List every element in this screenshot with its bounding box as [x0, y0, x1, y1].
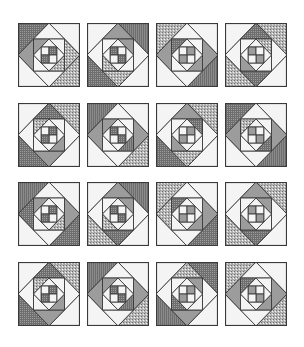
center-patch — [187, 294, 195, 302]
center-patch — [118, 294, 126, 302]
center-patch — [49, 206, 57, 214]
center-patch — [179, 135, 187, 143]
center-patch — [256, 127, 264, 135]
quilt-block — [225, 262, 287, 326]
quilt-block — [225, 23, 287, 87]
center-patch — [110, 55, 118, 63]
quilt-block — [87, 23, 149, 87]
center-patch — [118, 127, 126, 135]
center-patch — [179, 294, 187, 302]
center-patch — [118, 55, 126, 63]
center-patch — [256, 47, 264, 55]
center-patch — [110, 286, 118, 294]
center-patch — [187, 55, 195, 63]
center-patch — [41, 135, 49, 143]
quilt-block — [225, 182, 287, 246]
center-patch — [41, 214, 49, 222]
center-patch — [49, 214, 57, 222]
center-patch — [248, 135, 256, 143]
quilt-block — [156, 103, 218, 167]
center-patch — [248, 214, 256, 222]
quilt-block — [18, 23, 80, 87]
center-patch — [187, 127, 195, 135]
center-patch — [118, 135, 126, 143]
center-patch — [187, 135, 195, 143]
center-patch — [110, 135, 118, 143]
center-patch — [110, 127, 118, 135]
center-patch — [248, 47, 256, 55]
center-patch — [256, 206, 264, 214]
center-patch — [110, 206, 118, 214]
center-patch — [49, 127, 57, 135]
center-patch — [179, 286, 187, 294]
center-patch — [187, 286, 195, 294]
quilt-block — [87, 182, 149, 246]
center-patch — [41, 55, 49, 63]
quilt-block — [156, 262, 218, 326]
quilt-block — [18, 103, 80, 167]
quilt-block — [18, 262, 80, 326]
center-patch — [41, 206, 49, 214]
center-patch — [187, 206, 195, 214]
center-patch — [179, 47, 187, 55]
center-patch — [248, 286, 256, 294]
center-patch — [118, 286, 126, 294]
center-patch — [179, 127, 187, 135]
center-patch — [179, 206, 187, 214]
center-patch — [41, 47, 49, 55]
quilt-block — [156, 23, 218, 87]
center-patch — [248, 206, 256, 214]
quilt-block — [18, 182, 80, 246]
center-patch — [187, 214, 195, 222]
center-patch — [248, 127, 256, 135]
center-patch — [248, 55, 256, 63]
center-patch — [179, 214, 187, 222]
center-patch — [248, 294, 256, 302]
center-patch — [256, 294, 264, 302]
quilt-block — [156, 182, 218, 246]
center-patch — [118, 214, 126, 222]
center-patch — [49, 294, 57, 302]
center-patch — [41, 127, 49, 135]
center-patch — [187, 47, 195, 55]
quilt-block — [225, 103, 287, 167]
center-patch — [49, 286, 57, 294]
center-patch — [49, 55, 57, 63]
quilt-block — [87, 262, 149, 326]
center-patch — [110, 294, 118, 302]
quilt-grid — [0, 0, 304, 347]
center-patch — [110, 214, 118, 222]
center-patch — [179, 55, 187, 63]
center-patch — [41, 286, 49, 294]
center-patch — [110, 47, 118, 55]
quilt-block — [87, 103, 149, 167]
center-patch — [256, 55, 264, 63]
center-patch — [256, 135, 264, 143]
center-patch — [118, 47, 126, 55]
center-patch — [256, 214, 264, 222]
center-patch — [118, 206, 126, 214]
center-patch — [41, 294, 49, 302]
center-patch — [49, 135, 57, 143]
center-patch — [49, 47, 57, 55]
center-patch — [256, 286, 264, 294]
